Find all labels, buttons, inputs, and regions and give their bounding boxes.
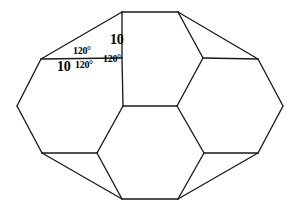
- label-angle-right: 120°: [103, 54, 121, 64]
- figure-svg: [0, 0, 299, 211]
- label-side-top: 10: [110, 33, 124, 47]
- geometry-diagram: 10 10 120° 120° 120°: [0, 0, 299, 211]
- label-angle-lower-left: 120°: [75, 60, 93, 70]
- label-angle-upper: 120°: [73, 46, 91, 56]
- label-side-left: 10: [57, 60, 71, 74]
